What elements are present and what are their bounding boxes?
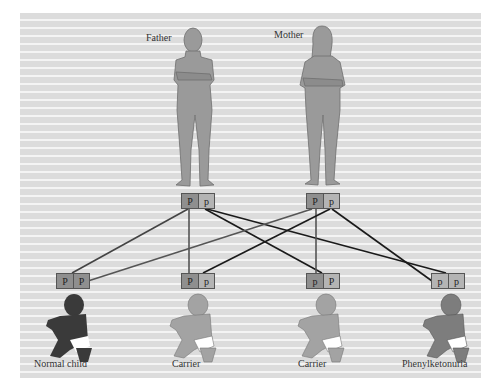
child-genotype-box-carrier-1: P p <box>181 273 215 289</box>
allele-cell: P <box>182 274 198 288</box>
father-figure <box>174 28 214 186</box>
allele-cell: p <box>448 274 464 288</box>
allele-cell: P <box>323 274 339 288</box>
father-label: Father <box>146 32 172 43</box>
allele-cell: p <box>198 274 214 288</box>
baby-carrier-1 <box>170 294 216 362</box>
allele-cell: P <box>73 274 89 288</box>
child-genotype-box-carrier-2: p P <box>306 273 340 289</box>
allele-cell: P <box>307 194 323 208</box>
child-label-pku: Phenylketonuria <box>402 358 468 369</box>
child-genotype-box-normal: P P <box>56 273 90 289</box>
mother-figure <box>300 26 345 185</box>
pedigree-art <box>0 0 498 383</box>
allele-cell: p <box>198 194 214 208</box>
child-genotype-box-pku: p p <box>431 273 465 289</box>
baby-phenylketonuria <box>423 294 469 362</box>
allele-cell: p <box>323 194 339 208</box>
mother-label: Mother <box>274 29 303 40</box>
inheritance-lines <box>72 209 446 281</box>
mother-genotype-box: P p <box>306 193 340 209</box>
child-label-carrier-2: Carrier <box>298 358 326 369</box>
allele-cell: P <box>57 274 73 288</box>
allele-cell: p <box>307 274 323 288</box>
baby-carrier-2 <box>298 294 344 362</box>
allele-cell: P <box>182 194 198 208</box>
child-label-carrier-1: Carrier <box>172 358 200 369</box>
father-genotype-box: P p <box>181 193 215 209</box>
allele-cell: p <box>432 274 448 288</box>
baby-normal-child <box>46 294 92 362</box>
child-label-normal: Normal child <box>34 358 87 369</box>
